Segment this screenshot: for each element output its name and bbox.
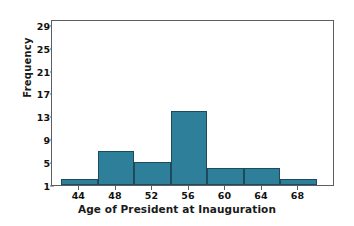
x-axis-title: Age of President at Inauguration [0, 203, 354, 215]
x-axis-tick-label: 68 [282, 190, 312, 201]
x-axis-tick-mark [261, 186, 262, 190]
x-axis-tick-label: 44 [63, 190, 93, 201]
x-axis-tick-label: 52 [136, 190, 166, 201]
x-axis-tick-mark [224, 186, 225, 190]
x-axis-tick-mark [115, 186, 116, 190]
x-axis-tick-label: 64 [246, 190, 276, 201]
x-axis-tick-label: 48 [100, 190, 130, 201]
x-axis-tick-mark [151, 186, 152, 190]
x-axis-tick-group: 44485256606468 [0, 0, 354, 226]
x-axis-tick-label: 56 [173, 190, 203, 201]
x-axis-tick-mark [188, 186, 189, 190]
x-axis-tick-mark [297, 186, 298, 190]
histogram-figure: Frequency 1591317212529 44485256606468 A… [0, 0, 354, 226]
x-axis-tick-mark [78, 186, 79, 190]
x-axis-tick-label: 60 [209, 190, 239, 201]
